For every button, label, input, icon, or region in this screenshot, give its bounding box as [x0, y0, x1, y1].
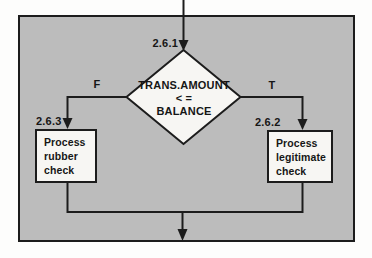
decision-condition-text: TRANS.AMOUNT < = BALANCE — [128, 79, 240, 118]
right-process-module-id: 2.6.2 — [255, 117, 280, 128]
true-branch-label: T — [262, 80, 282, 91]
process-box-rubber-check: Process rubber check — [35, 129, 97, 183]
process-box-legitimate-check: Process legitimate check — [267, 130, 333, 183]
decision-condition-line3: BALANCE — [128, 105, 240, 118]
exit-arrowhead-icon — [178, 229, 188, 241]
left-process-module-id: 2.6.3 — [36, 116, 61, 127]
rubber-check-line1: Process — [44, 135, 93, 149]
decision-module-id: 2.6.1 — [130, 38, 178, 49]
false-branch-line — [68, 97, 127, 119]
false-branch-arrowhead-icon — [63, 118, 73, 129]
true-branch-arrowhead-icon — [298, 119, 308, 130]
rubber-check-line2: rubber — [44, 149, 93, 163]
legitimate-check-line1: Process — [276, 136, 329, 150]
merge-connector-line — [68, 183, 303, 212]
rubber-check-line3: check — [44, 163, 93, 177]
decision-condition-line2: < = — [128, 92, 240, 105]
legitimate-check-line2: legitimate — [276, 150, 329, 164]
false-branch-label: F — [87, 79, 107, 90]
decision-condition-line1: TRANS.AMOUNT — [128, 79, 240, 92]
flowchart-page: 2.6.1 F T 2.6.3 2.6.2 TRANS.AMOUNT < = B… — [0, 0, 372, 258]
legitimate-check-line3: check — [276, 164, 329, 178]
